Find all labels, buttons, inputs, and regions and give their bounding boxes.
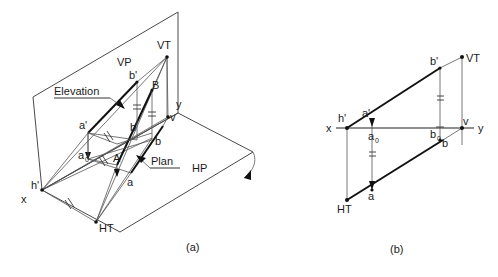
label-a-zero-sub: 0 bbox=[85, 156, 89, 163]
label-B: B bbox=[152, 79, 159, 91]
b-point-aprime-dot bbox=[370, 118, 373, 121]
label-elevation: Elevation bbox=[54, 85, 99, 97]
panel-a: VP HP Elevation Plan x y h' v VT HT a' b… bbox=[21, 12, 255, 253]
panel-a-caption: (a) bbox=[186, 241, 199, 253]
b-label-a: a bbox=[368, 190, 375, 202]
point-vt-dot bbox=[165, 55, 169, 59]
panel-b-caption: (b) bbox=[390, 243, 403, 255]
construct-A-to-b bbox=[117, 133, 152, 144]
label-y: y bbox=[176, 98, 182, 110]
b-label-v: v bbox=[463, 115, 469, 127]
arrowhead-A bbox=[114, 169, 120, 177]
hp-plane-outline bbox=[42, 113, 253, 232]
elevation-extension-hprime bbox=[42, 133, 88, 190]
construct-a0-to-A bbox=[88, 159, 131, 173]
label-b: b bbox=[155, 135, 161, 147]
ray-hprime-to-vt bbox=[42, 57, 167, 190]
panel-b: x y h' v VT HT a' b' a b a 0 b 0 (b) bbox=[326, 52, 484, 255]
label-vp: VP bbox=[117, 56, 132, 68]
b-point-hprime-dot bbox=[345, 126, 349, 130]
label-b-upper: b bbox=[130, 121, 136, 133]
b-label-b-zero: b bbox=[430, 128, 436, 140]
b-label-x: x bbox=[326, 122, 332, 134]
label-A: A bbox=[113, 152, 121, 164]
label-hp: HP bbox=[192, 162, 207, 174]
b-label-ht: HT bbox=[337, 203, 352, 215]
label-plan: Plan bbox=[151, 155, 173, 167]
b-elevation-line bbox=[347, 68, 440, 128]
label-a: a bbox=[127, 176, 134, 188]
label-x: x bbox=[21, 193, 27, 205]
b-label-aprime: a' bbox=[362, 107, 370, 119]
true-line-AB-ext-ht bbox=[96, 165, 117, 222]
projection-drawing: VP HP Elevation Plan x y h' v VT HT a' b… bbox=[0, 0, 498, 277]
b-point-vt-dot bbox=[460, 55, 464, 59]
b-label-b-zero-sub: 0 bbox=[437, 135, 441, 142]
label-a-zero: a bbox=[78, 149, 85, 161]
b-point-ht-dot bbox=[345, 198, 349, 202]
b-elevation-ext-vt bbox=[440, 57, 462, 68]
b-label-a-zero-sub: 0 bbox=[375, 137, 379, 144]
b-label-b: b bbox=[442, 137, 448, 149]
b-label-hprime: h' bbox=[338, 112, 346, 124]
label-bprime: b' bbox=[129, 69, 137, 81]
b-plan-line bbox=[347, 140, 443, 200]
point-hprime-dot bbox=[40, 188, 44, 192]
label-v: v bbox=[170, 111, 176, 123]
ray-hprime-to-v bbox=[42, 117, 168, 190]
b-point-bprime-dot bbox=[438, 66, 441, 69]
b-label-vt: VT bbox=[466, 52, 480, 64]
label-aprime: a' bbox=[79, 119, 87, 131]
b-label-a-zero: a bbox=[368, 130, 375, 142]
figure-canvas: VP HP Elevation Plan x y h' v VT HT a' b… bbox=[0, 0, 498, 277]
point-ht-dot bbox=[94, 220, 98, 224]
hp-rotation-arrowhead bbox=[244, 170, 251, 180]
label-vt: VT bbox=[157, 39, 171, 51]
label-ht: HT bbox=[99, 222, 114, 234]
b-label-y: y bbox=[478, 122, 484, 134]
ray-hprime-to-b bbox=[42, 138, 152, 190]
construct-aprime-to-bprime-base bbox=[88, 133, 117, 144]
label-hprime: h' bbox=[31, 179, 39, 191]
b-label-bprime: b' bbox=[430, 55, 438, 67]
